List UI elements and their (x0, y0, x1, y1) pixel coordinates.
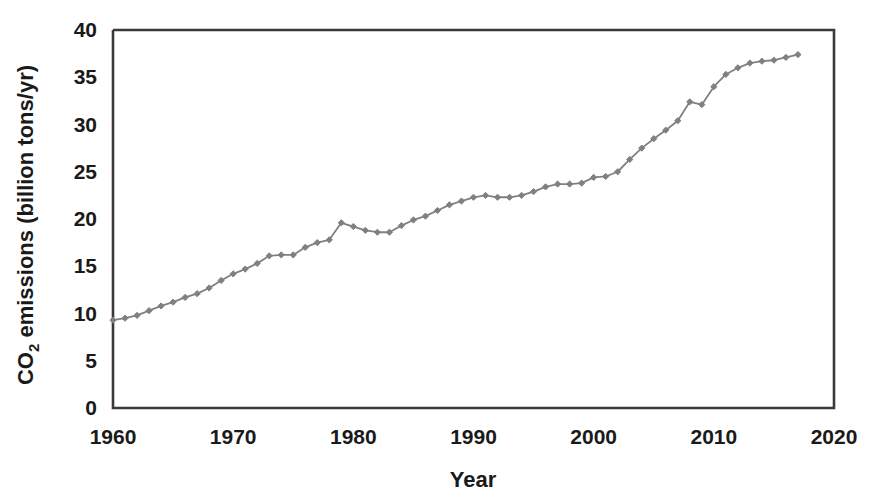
y-tick-label: 20 (74, 207, 97, 230)
y-axis-title-text: CO2 emissions (billion tons/yr) (13, 65, 42, 385)
co2-emissions-line-chart: 0510152025303540 19601970198019902000201… (0, 0, 877, 497)
x-tick-label: 1960 (90, 425, 137, 448)
y-tick-label: 0 (85, 396, 97, 419)
x-tick-label: 1970 (210, 425, 257, 448)
x-tick-label: 1990 (450, 425, 497, 448)
x-axis-title-text: Year (450, 467, 497, 492)
y-tick-label: 25 (74, 160, 98, 183)
y-tick-label: 10 (74, 302, 97, 325)
chart-background (0, 0, 877, 497)
x-tick-label: 1980 (330, 425, 377, 448)
x-tick-label: 2020 (811, 425, 858, 448)
y-axis-title: CO2 emissions (billion tons/yr) (13, 65, 42, 385)
y-tick-label: 5 (85, 349, 97, 372)
y-tick-label: 40 (74, 18, 97, 41)
chart-figure: 0510152025303540 19601970198019902000201… (0, 0, 877, 497)
y-tick-label: 35 (74, 65, 98, 88)
y-tick-label: 30 (74, 113, 97, 136)
x-tick-label: 2010 (690, 425, 737, 448)
x-tick-label: 2000 (570, 425, 617, 448)
y-tick-label: 15 (74, 254, 98, 277)
